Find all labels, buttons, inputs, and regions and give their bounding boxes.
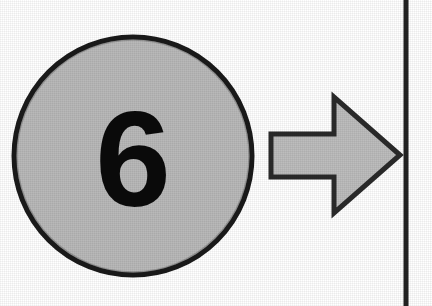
figure-canvas: 6	[0, 0, 432, 306]
right-arrow-icon	[271, 97, 400, 213]
disc-number-label: 6	[95, 83, 171, 235]
diagram-figure: 6	[0, 0, 432, 306]
